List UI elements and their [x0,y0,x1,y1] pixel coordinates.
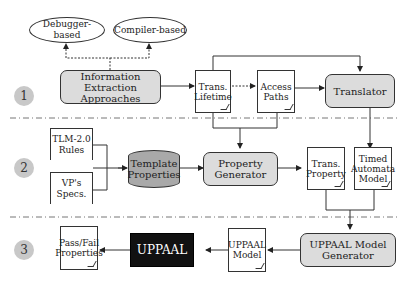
uppaal-tool-node: UPPAAL [130,233,194,267]
trans-lifetime-doc: Trans. Lifetime [195,70,231,113]
vp-specs-doc: VP's Specs. [50,172,93,204]
timed-automata-doc: Timed Automata Model [354,147,392,190]
tlm-rules-doc: TLM-2.0 Rules [50,128,93,160]
debugger-based-node: Debugger-based [29,17,105,43]
stage-3-badge: 3 [14,240,34,260]
translator-node: Translator [325,74,395,108]
pass-fail-doc: Pass/Fail Properties [60,226,98,270]
info-extraction-node: Information Extraction Approaches [60,70,161,104]
template-properties-db: Template Properties [128,150,180,188]
stage-1-badge: 1 [14,86,34,106]
compiler-based-node: Compiler-based [113,17,187,43]
uppaal-model-generator-node: UPPAAL Model Generator [300,233,396,267]
stage-2-badge: 2 [14,158,34,178]
uppaal-model-doc: UPPAAL Model [228,228,266,272]
property-generator-node: Property Generator [203,152,278,186]
trans-property-doc: Trans. Property [307,147,345,190]
access-paths-doc: Access Paths [257,70,295,113]
